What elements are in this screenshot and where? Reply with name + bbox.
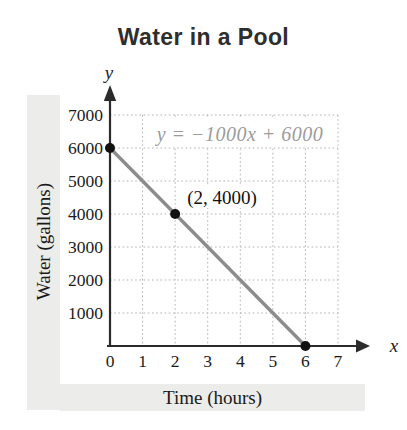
- x-tick-label: 2: [171, 351, 180, 371]
- figure: Water in a Pool Water (gallons) Time (ho…: [0, 0, 407, 430]
- gridlines: [110, 115, 338, 346]
- y-tick-label: 3000: [68, 237, 103, 257]
- plot-area: 012345671000200030004000500060007000 y =…: [0, 0, 407, 430]
- x-tick-label: 3: [203, 351, 212, 371]
- x-axis-arrow-icon: [356, 340, 370, 353]
- y-tick-label: 5000: [68, 171, 103, 191]
- x-tick-label: 7: [334, 351, 343, 371]
- y-tick-label: 4000: [68, 204, 103, 224]
- y-tick-label: 2000: [68, 270, 103, 290]
- y-axis-letter: y: [103, 62, 114, 83]
- data-line-group: [110, 148, 305, 346]
- equation-label: y = −1000x + 6000: [155, 123, 324, 146]
- x-tick-label: 5: [268, 351, 277, 371]
- x-tick-label: 0: [106, 351, 115, 371]
- x-tick-label: 4: [236, 351, 245, 371]
- y-axis-arrow-icon: [104, 85, 116, 101]
- data-point: [105, 143, 115, 153]
- point-label: (2, 4000): [187, 187, 257, 209]
- x-tick-label: 6: [301, 351, 310, 371]
- y-tick-label: 1000: [68, 303, 103, 323]
- data-point: [300, 341, 310, 351]
- data-point: [170, 209, 180, 219]
- x-axis-letter: x: [389, 335, 399, 356]
- water-volume-line: [110, 148, 305, 346]
- y-tick-label: 7000: [68, 105, 103, 125]
- x-tick-label: 1: [138, 351, 147, 371]
- y-tick-label: 6000: [68, 138, 103, 158]
